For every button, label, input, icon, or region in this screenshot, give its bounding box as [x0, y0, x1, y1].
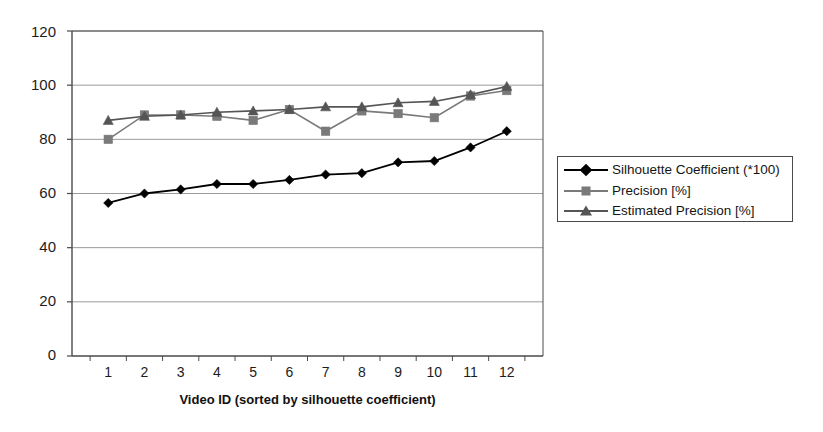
series-line — [108, 87, 507, 121]
series-line — [108, 131, 507, 203]
marker-square — [104, 135, 112, 143]
marker-triangle — [502, 82, 512, 91]
marker-diamond — [466, 143, 475, 152]
legend-item-silhouette-coefficient[interactable]: Silhouette Coefficient (*100) — [564, 160, 780, 180]
legend-label: Silhouette Coefficient (*100) — [612, 163, 780, 177]
x-axis-tick-label: 11 — [451, 365, 491, 379]
marker-diamond — [393, 158, 402, 167]
series-layer — [103, 82, 512, 208]
legend-marker-square — [564, 182, 608, 200]
marker-square — [430, 113, 438, 121]
marker-diamond — [176, 185, 185, 194]
marker-square — [394, 109, 402, 117]
x-axis-tick-label: 5 — [233, 365, 273, 379]
x-axis-title: Video ID (sorted by silhouette coefficie… — [72, 393, 543, 406]
legend-label: Estimated Precision [%] — [612, 204, 755, 218]
legend-item-estimated-precision[interactable]: Estimated Precision [%] — [564, 201, 755, 221]
marker-square — [321, 127, 329, 135]
x-axis-tick-label: 7 — [306, 365, 346, 379]
marker-diamond — [357, 169, 366, 178]
marker-diamond — [285, 175, 294, 184]
marker-diamond — [249, 179, 258, 188]
legend-marker-diamond — [564, 161, 608, 179]
x-axis-tick-label: 3 — [161, 365, 201, 379]
marker-diamond — [502, 127, 511, 136]
x-axis-tick-label: 8 — [342, 365, 382, 379]
x-axis-tick-label: 6 — [269, 365, 309, 379]
legend-item-precision[interactable]: Precision [%] — [564, 181, 691, 201]
legend-label: Precision [%] — [612, 184, 691, 198]
x-axis-ticks — [90, 356, 525, 361]
marker-diamond — [212, 179, 221, 188]
x-axis-tick-label: 4 — [197, 365, 237, 379]
line-chart: 120 100 80 60 40 20 0 123456789101112 Vi… — [0, 0, 823, 432]
x-axis-tick-label: 1 — [88, 365, 128, 379]
legend: Silhouette Coefficient (*100) Precision … — [557, 156, 793, 222]
series-1 — [104, 127, 512, 208]
series-3 — [103, 82, 512, 125]
marker-diamond — [430, 156, 439, 165]
legend-marker-triangle — [564, 202, 608, 220]
gridlines — [72, 31, 543, 302]
x-axis-tick-label: 10 — [414, 365, 454, 379]
marker-diamond — [140, 189, 149, 198]
marker-diamond — [321, 170, 330, 179]
x-axis-tick-label: 2 — [124, 365, 164, 379]
marker-square — [249, 116, 257, 124]
x-axis-tick-label: 9 — [378, 365, 418, 379]
marker-diamond — [104, 198, 113, 207]
x-axis-tick-label: 12 — [487, 365, 527, 379]
